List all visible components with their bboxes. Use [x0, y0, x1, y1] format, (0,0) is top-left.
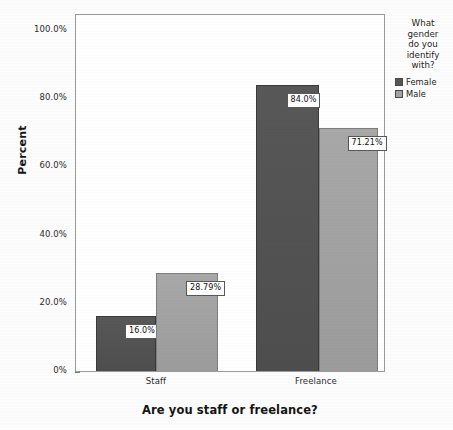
plot-area: 16.0%28.79%84.0%71.21%: [75, 14, 385, 372]
legend-title: Whatgenderdo youidentifywith?: [394, 18, 452, 71]
data-label-staff-female: 16.0%: [125, 324, 159, 339]
data-label-staff-male: 28.79%: [186, 281, 225, 296]
y-tick-mark: [75, 372, 80, 373]
data-label-freelance-female: 84.0%: [287, 93, 321, 108]
legend-title-line: do you: [394, 39, 452, 50]
y-axis-title: Percent: [16, 30, 29, 150]
legend-items: FemaleMale: [395, 77, 452, 99]
y-axis-title-label: Percent: [16, 90, 29, 210]
legend-item-female[interactable]: Female: [395, 77, 452, 87]
legend-title-line: What: [394, 18, 452, 29]
legend-swatch-icon-male: [395, 90, 403, 98]
bar-chart: Percent 100.0%80.0%60.0%40.0%20.0%0% 16.…: [0, 0, 453, 430]
y-tick-label: 0%: [53, 365, 67, 375]
legend-label: Male: [406, 89, 426, 99]
legend-title-line: identify: [394, 50, 452, 61]
bar-freelance-female[interactable]: [256, 85, 319, 371]
x-axis-title: Are you staff or freelance?: [75, 403, 385, 417]
y-tick-label: 100.0%: [34, 24, 67, 34]
legend: Whatgenderdo youidentifywith? FemaleMale: [394, 18, 452, 101]
bar-freelance-male[interactable]: [319, 128, 378, 371]
y-tick-label: 40.0%: [39, 229, 67, 239]
legend-title-line: gender: [394, 29, 452, 40]
legend-item-male[interactable]: Male: [395, 89, 452, 99]
legend-label: Female: [406, 77, 437, 87]
y-tick-label: 20.0%: [39, 297, 67, 307]
x-category-label-freelance: Freelance: [266, 376, 366, 386]
plot-inner: 16.0%28.79%84.0%71.21%: [76, 15, 384, 371]
legend-title-line: with?: [394, 60, 452, 71]
data-label-freelance-male: 71.21%: [348, 136, 387, 151]
x-category-label-staff: Staff: [106, 376, 206, 386]
legend-swatch-icon-female: [395, 78, 403, 86]
y-tick-label: 80.0%: [39, 92, 67, 102]
y-tick-label: 60.0%: [39, 160, 67, 170]
